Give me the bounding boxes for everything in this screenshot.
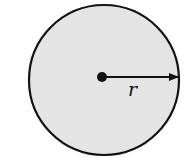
circle-diagram: r xyxy=(0,0,191,166)
center-dot xyxy=(97,72,107,82)
